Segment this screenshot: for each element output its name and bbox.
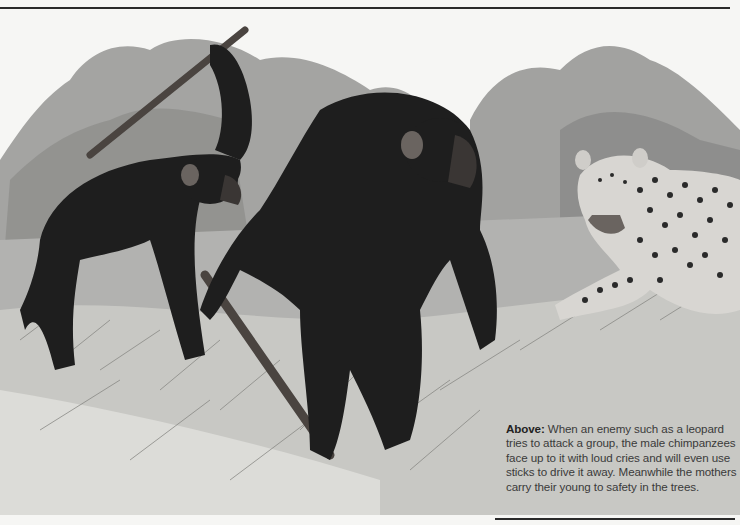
top-rule-divider	[0, 7, 730, 9]
figure-caption: Above: When an enemy such as a leopard t…	[506, 422, 738, 495]
caption-lead: Above:	[506, 422, 545, 435]
book-page: Above: When an enemy such as a leopard t…	[0, 0, 740, 525]
bottom-rule-divider	[495, 518, 735, 520]
